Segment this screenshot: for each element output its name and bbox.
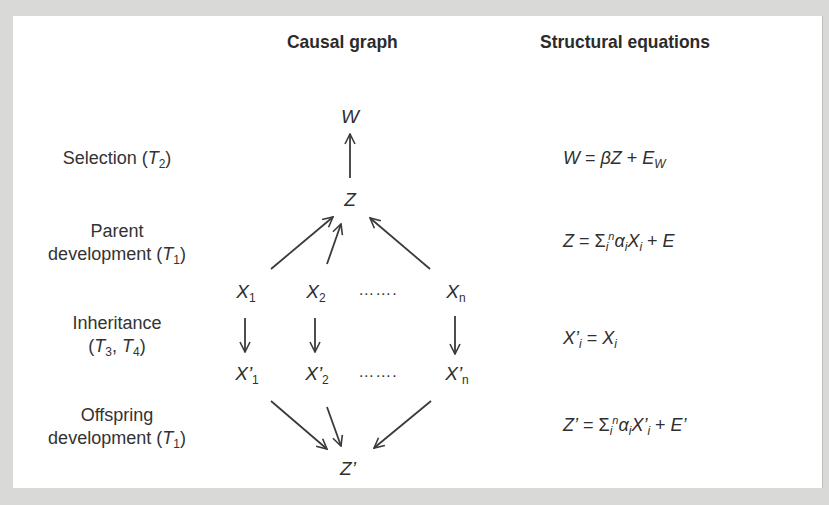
eq-term: Z’: [563, 415, 578, 435]
ellipsis-x-prime: …….: [358, 363, 397, 381]
eq-term: α: [614, 231, 624, 251]
stage-label-text: ,: [112, 336, 122, 356]
node-label: X: [446, 281, 459, 302]
eq-term: E: [663, 231, 675, 251]
stage-label-text: ): [165, 148, 171, 168]
eq-term: Z: [611, 148, 622, 168]
node-z-prime: Z’: [340, 458, 356, 480]
node-z: Z: [344, 189, 356, 211]
stage-label-text: ): [180, 428, 186, 448]
eq-sub: i: [606, 240, 609, 254]
eq-term: E: [642, 148, 654, 168]
node-sub: 1: [252, 373, 259, 387]
structural-equations-header: Structural equations: [540, 31, 710, 53]
stage-label-text: ): [180, 244, 186, 264]
eq-term: β: [601, 148, 611, 168]
node-label: X: [306, 281, 319, 302]
node-x1: X1: [236, 281, 255, 305]
stage-offspring-development: Offspring development (T1): [22, 404, 212, 456]
stage-sub: 1: [173, 253, 180, 267]
stage-label-text: development (: [48, 244, 162, 264]
stage-inheritance: Inheritance (T3, T4): [22, 312, 212, 364]
node-sub: n: [459, 291, 466, 305]
eq-op: =: [578, 415, 599, 435]
stage-label-line1: Offspring: [22, 404, 212, 427]
eq-sub: i: [614, 337, 617, 351]
eq-sub: i: [610, 424, 613, 438]
stage-sub: 3: [105, 345, 112, 359]
equation-parent-development: Z = ΣinαiXi + E: [563, 230, 675, 254]
node-x2: X2: [306, 281, 325, 305]
equation-offspring-development: Z’ = ΣinαiX’i + E’: [563, 414, 687, 438]
stage-var: T: [122, 336, 133, 356]
node-label: X’: [445, 363, 462, 384]
stage-label-line1: Parent: [22, 220, 212, 243]
stage-label-line2: development (T1): [22, 427, 212, 456]
stage-var: T: [148, 148, 159, 168]
node-sub: n: [462, 373, 469, 387]
stage-label-text: development (: [48, 428, 162, 448]
eq-term: Z: [563, 231, 574, 251]
stage-label-line2: development (T1): [22, 243, 212, 272]
eq-op: +: [650, 415, 671, 435]
equation-selection: W = βZ + EW: [563, 148, 666, 171]
node-label: X’: [235, 363, 252, 384]
eq-op: +: [642, 231, 663, 251]
ellipsis-x: …….: [358, 281, 397, 299]
eq-term: X: [627, 231, 639, 251]
eq-sub: W: [654, 157, 665, 171]
node-xn-prime: X’n: [445, 363, 469, 387]
eq-op: =: [574, 231, 595, 251]
eq-op: +: [622, 148, 643, 168]
eq-term: X’: [631, 415, 647, 435]
stage-label-line2: (T3, T4): [22, 335, 212, 364]
stage-label-text: ): [140, 336, 146, 356]
eq-op: =: [580, 148, 601, 168]
node-x1-prime: X’1: [235, 363, 259, 387]
node-sub: 2: [322, 373, 329, 387]
eq-term: X’: [563, 328, 579, 348]
causal-graph-header: Causal graph: [287, 31, 398, 53]
node-label: X’: [305, 363, 322, 384]
node-label: X: [236, 281, 249, 302]
stage-var: T: [94, 336, 105, 356]
equation-inheritance: X’i = Xi: [563, 328, 617, 351]
eq-term: X: [602, 328, 614, 348]
node-x2-prime: X’2: [305, 363, 329, 387]
stage-label-text: Selection (: [63, 148, 148, 168]
stage-sub: 1: [173, 437, 180, 451]
stage-label-line1: Inheritance: [22, 312, 212, 335]
eq-op: =: [582, 328, 603, 348]
node-xn: Xn: [446, 281, 465, 305]
node-sub: 2: [319, 291, 326, 305]
node-sub: 1: [249, 291, 256, 305]
eq-sum: Σ: [599, 415, 610, 435]
stage-var: T: [162, 428, 173, 448]
stage-var: T: [162, 244, 173, 264]
stage-sub: 4: [133, 345, 140, 359]
stage-selection: Selection (T2): [22, 147, 212, 176]
node-w: W: [341, 106, 359, 128]
stage-parent-development: Parent development (T1): [22, 220, 212, 272]
eq-sum: Σ: [595, 231, 606, 251]
eq-term: W: [563, 148, 580, 168]
eq-term: α: [618, 415, 628, 435]
eq-term: E’: [671, 415, 687, 435]
